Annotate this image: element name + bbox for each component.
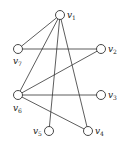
node-label-v5: v5 — [33, 126, 42, 137]
edges-group — [18, 15, 101, 131]
node-label-v7: v7 — [13, 56, 22, 67]
node-v2 — [97, 45, 106, 54]
node-label-v2: v2 — [108, 44, 117, 55]
node-label-v4: v4 — [95, 126, 104, 137]
node-label-v1: v1 — [67, 10, 76, 21]
labels-group: v1v2v3v4v5v6v7 — [13, 10, 117, 137]
edge-v6-v4 — [18, 95, 88, 131]
node-label-v6: v6 — [13, 103, 22, 114]
node-v1 — [56, 11, 65, 20]
graph-diagram: v1v2v3v4v5v6v7 — [0, 0, 130, 154]
node-v6 — [14, 91, 23, 100]
node-v3 — [97, 91, 106, 100]
node-v4 — [84, 127, 93, 136]
edge-v1-v7 — [18, 15, 60, 49]
node-label-v3: v3 — [108, 90, 117, 101]
edge-v1-v4 — [60, 15, 88, 131]
node-v7 — [14, 45, 23, 54]
node-v5 — [45, 127, 54, 136]
